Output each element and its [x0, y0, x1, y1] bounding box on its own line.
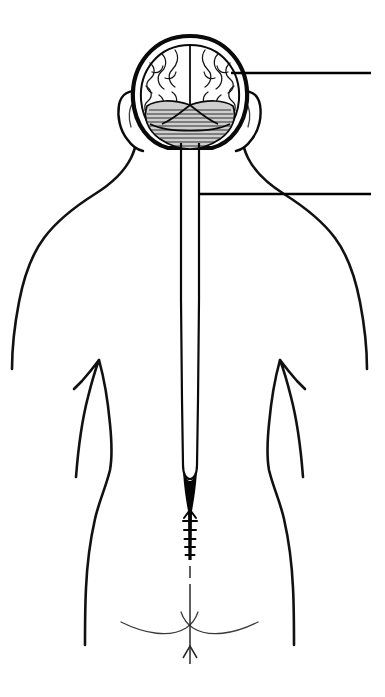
cauda-equina-shaft — [188, 511, 192, 560]
anatomical-diagram — [0, 0, 385, 697]
cns-anatomy-illustration — [0, 0, 385, 697]
